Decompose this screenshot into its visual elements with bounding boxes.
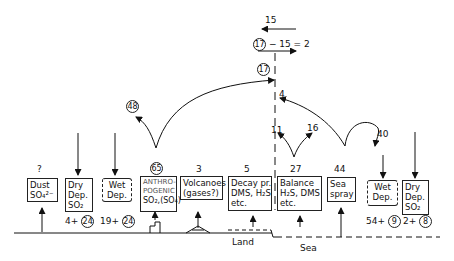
sea-label: Sea (300, 243, 317, 253)
dust-value: ? (37, 164, 42, 174)
circled-value: 17 (253, 38, 266, 51)
volcanoes-value: 3 (196, 164, 202, 174)
wet-dep-land-box: Wet Dep. (102, 178, 132, 202)
flux-expression-rest: − 15 = 2 (269, 39, 310, 49)
dry-dep-sea-flux: 2+ 8 (403, 215, 432, 228)
wet-dep-sea-box: Wet Dep. (367, 180, 398, 206)
wet-dep-land-flux: 19+ 24 (100, 215, 135, 228)
arc-to-11 (278, 133, 294, 157)
circled-value: 24 (122, 215, 135, 228)
dry-dep-sea-box: Dry Dep. SO₂ (402, 180, 429, 215)
flux-left-value: 15 (265, 15, 276, 25)
flux-right-expression: 17 − 15 = 2 (253, 38, 310, 51)
balance-left-flux: 11 (271, 125, 282, 135)
anthro-land-flux: 48 (126, 100, 139, 113)
circled-value: 65 (150, 162, 163, 175)
seaspray-wet-flux: 40 (377, 129, 388, 139)
arc-to-40 (345, 122, 379, 146)
arc-to-16 (294, 133, 312, 157)
arc-to-boundary (156, 80, 274, 148)
circled-value: 8 (419, 215, 432, 228)
balance-box: Balance H₂S, DMS etc. (277, 176, 322, 211)
arc-to-4 (280, 98, 345, 146)
decay-box: Decay pr. DMS, H₂S etc. (228, 176, 272, 211)
decay-value: 5 (244, 164, 250, 174)
circled-value: 17 (257, 63, 270, 76)
sea-spray-value: 44 (334, 164, 345, 174)
transport-value: 17 (257, 63, 270, 76)
circled-value: 48 (126, 100, 139, 113)
balance-right-flux: 16 (307, 123, 318, 133)
sea-spray-box: Sea spray (327, 177, 356, 202)
anthropogenic-value: 65 (150, 162, 163, 175)
dry-dep-land-flux: 4+ 24 (65, 215, 94, 228)
arc-to-48 (136, 117, 156, 148)
dust-box: Dust SO₄²⁻ (27, 178, 58, 202)
wet-dep-sea-flux: 54+ 9 (366, 215, 401, 228)
dry-dep-land-box: Dry Dep. SO₂ (65, 178, 93, 212)
balance-value: 27 (290, 164, 301, 174)
circled-value: 9 (388, 215, 401, 228)
circled-value: 24 (81, 215, 94, 228)
volcanoes-box: Volcanoes (gases?) (180, 176, 223, 200)
sea-to-boundary-flux: 4 (279, 89, 285, 99)
anthropogenic-box: ANTHRO- POGENIC SO₂,(SO₄) (140, 176, 177, 212)
land-label: Land (232, 237, 254, 247)
